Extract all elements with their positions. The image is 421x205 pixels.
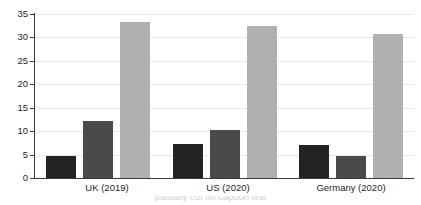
y-tick-label: 30 — [0, 32, 28, 42]
bar-germany-series-3 — [373, 34, 403, 178]
gridline — [35, 37, 414, 38]
x-axis-line — [34, 178, 414, 179]
bar-chart: 35 30 25 20 15 10 5 0 — [0, 0, 421, 205]
bar-germany-series-2 — [336, 156, 366, 178]
gridline — [35, 84, 414, 85]
x-tick-label-uk: UK (2019) — [47, 182, 167, 193]
x-tick-label-germany: Germany (2020) — [288, 182, 414, 193]
bar-us-series-1 — [173, 144, 203, 178]
y-tick-label: 35 — [0, 9, 28, 19]
plot-area — [35, 14, 414, 178]
y-tick-label: 5 — [0, 150, 28, 160]
bar-uk-series-2 — [83, 121, 113, 178]
clipped-caption-text: partially cut off caption line — [0, 196, 421, 202]
y-tick-label: 20 — [0, 79, 28, 89]
gridline — [35, 61, 414, 62]
gridline — [35, 14, 414, 15]
x-tick-label-us: US (2020) — [168, 182, 288, 193]
clipped-caption: partially cut off caption line — [0, 196, 421, 205]
bar-uk-series-3 — [120, 22, 150, 178]
y-tick-label: 10 — [0, 126, 28, 136]
bar-germany-series-1 — [299, 145, 329, 178]
bar-us-series-2 — [210, 130, 240, 178]
y-tick-label: 15 — [0, 103, 28, 113]
y-tick-label: 25 — [0, 56, 28, 66]
gridline — [35, 108, 414, 109]
y-tick-label: 0 — [0, 173, 28, 183]
bar-uk-series-1 — [46, 156, 76, 178]
bar-us-series-3 — [247, 26, 277, 178]
